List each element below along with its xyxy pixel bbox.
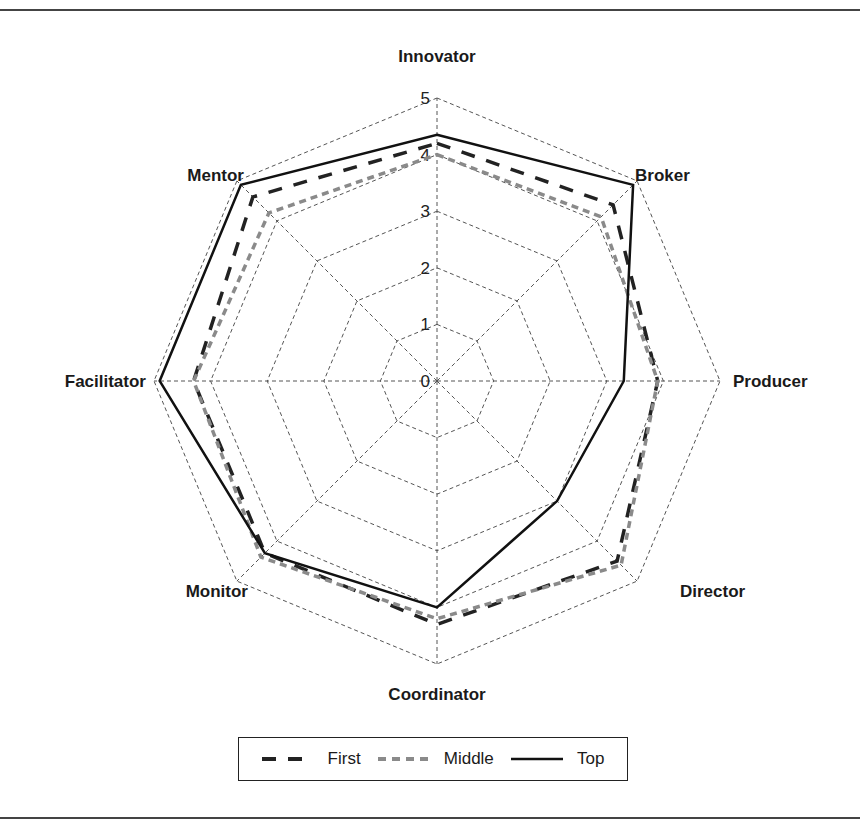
tick-label: 5 [421,89,430,108]
axis-label-mentor: Mentor [187,166,244,185]
tick-label: 0 [421,372,430,391]
axis-label-coordinator: Coordinator [388,685,486,704]
tick-label: 3 [421,202,430,221]
bottom-rule [0,817,860,819]
tick-label: 2 [421,259,430,278]
tick-label: 1 [421,315,430,334]
solid-black-line-icon [511,755,563,763]
radar-chart: 012345 InnovatorBrokerProducerDirectorCo… [0,0,860,833]
grid-spoke [237,381,437,581]
legend-label: Middle [444,749,494,769]
legend-item-first: First [262,749,361,769]
legend-label: Top [577,749,604,769]
axis-label-broker: Broker [635,166,690,185]
data-series [160,135,658,625]
legend-item-middle: Middle [378,749,494,769]
grid-spoke [237,181,437,381]
legend: First Middle Top [238,737,628,781]
axis-label-facilitator: Facilitator [65,372,147,391]
dashed-gray-line-icon [378,755,430,763]
axis-label-director: Director [680,582,746,601]
axis-label-producer: Producer [733,372,808,391]
legend-item-top: Top [511,749,604,769]
axis-label-monitor: Monitor [186,582,249,601]
axis-labels: InnovatorBrokerProducerDirectorCoordinat… [65,47,808,704]
dashed-black-line-icon [262,755,314,763]
series-top [160,135,633,608]
grid-spoke [437,181,637,381]
legend-label: First [328,749,361,769]
radial-tick-labels: 012345 [421,89,430,391]
axis-label-innovator: Innovator [398,47,476,66]
